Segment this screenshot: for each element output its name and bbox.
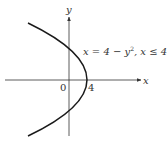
- equation-label: x = 4 − y2, x ≤ 4: [83, 45, 167, 57]
- x-axis-label: x: [143, 75, 149, 86]
- equation-rest: , x ≤ 4: [134, 46, 167, 57]
- tick-4-label: 4: [88, 82, 94, 93]
- origin-label: 0: [60, 82, 66, 93]
- parabola-diagram: y x 0 4 x = 4 − y2, x ≤ 4: [0, 0, 168, 164]
- y-axis-label: y: [65, 4, 72, 15]
- equation-lhs: x = 4 − y: [83, 46, 130, 57]
- parabola-curve: [28, 23, 87, 136]
